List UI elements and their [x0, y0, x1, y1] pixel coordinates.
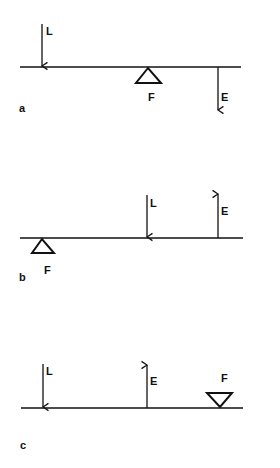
fulcrum-triangle-icon — [136, 68, 161, 83]
panel-label: c — [20, 439, 26, 451]
lever-diagram: L F E a F b L E L E F c — [0, 0, 280, 468]
panel-label: a — [19, 102, 26, 114]
effort-label: E — [221, 205, 228, 217]
fulcrum-label: F — [44, 264, 51, 276]
effort-label: E — [221, 91, 228, 103]
load-label: L — [46, 25, 53, 37]
load-label: L — [46, 365, 53, 377]
panel-b: F b L E — [19, 194, 243, 283]
panel-a: L F E a — [19, 24, 241, 114]
fulcrum-inverted-triangle-icon — [207, 393, 232, 407]
fulcrum-triangle-icon — [32, 239, 54, 253]
fulcrum-label: F — [148, 91, 155, 103]
effort-label: E — [150, 375, 157, 387]
load-label: L — [150, 197, 157, 209]
fulcrum-label: F — [221, 372, 228, 384]
panel-c: L E F c — [20, 364, 243, 451]
panel-label: b — [19, 271, 26, 283]
